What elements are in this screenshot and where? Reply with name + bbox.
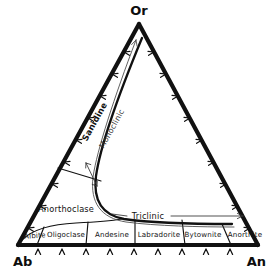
vertex-label-an: An [247,254,266,269]
field-label-albite: Albite [24,230,46,240]
field-label-oligoclase: Oligoclase [47,230,85,239]
vertex-label-ab: Ab [13,254,32,269]
annotation-triclinic: Triclinic [131,211,164,221]
field-label-anorthoclase: Anorthoclase [38,204,94,214]
bottom-edge-ticks [35,249,232,254]
field-label-bytownite: Bytownite [185,230,222,239]
field-divider-oligoclase-andesine [86,222,88,245]
field-label-anorthite: Anorthite [228,230,262,239]
field-label-labradorite: Labradorite [138,230,181,239]
vertex-label-or: Or [130,3,148,18]
field-label-andesine: Andesine [95,230,129,239]
ternary-diagram: Or Ab An Albite Oligoclase Andesine Labr… [0,0,279,272]
feldspar-ternary-svg: Or Ab An Albite Oligoclase Andesine Labr… [0,0,279,272]
